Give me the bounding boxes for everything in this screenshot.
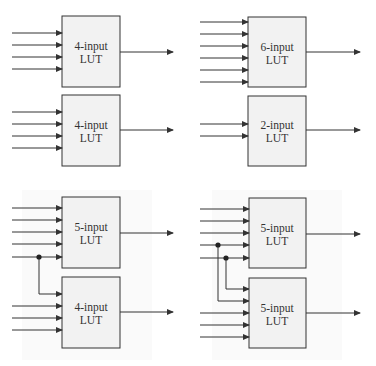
- lut-label-line2: LUT: [80, 132, 102, 144]
- lut-label-line1: 4-input: [74, 301, 108, 314]
- lut-configurations-diagram: 4-input LUT 4-input LUT 6-input LUT 2-in…: [0, 0, 376, 366]
- junction-dot: [223, 255, 228, 260]
- lut-label-line2: LUT: [266, 315, 288, 327]
- lut-label-line2: LUT: [80, 234, 102, 246]
- lut-label-line2: LUT: [266, 54, 288, 66]
- lut-label-line2: LUT: [266, 132, 288, 144]
- lut-label-line1: 2-input: [260, 119, 294, 132]
- lut-label-line1: 4-input: [74, 40, 108, 53]
- lut-label-line2: LUT: [80, 314, 102, 326]
- lut-label-line2: LUT: [80, 53, 102, 65]
- lut-label-line1: 4-input: [74, 119, 108, 132]
- lut-box: [248, 96, 306, 166]
- lut-label-line1: 5-input: [260, 302, 294, 315]
- lut-label-line1: 5-input: [74, 221, 108, 234]
- junction-dot: [36, 254, 41, 259]
- lut-label-line1: 6-input: [260, 41, 294, 54]
- junction-dot: [215, 242, 220, 247]
- lut-label-line2: LUT: [266, 235, 288, 247]
- lut-label-line1: 5-input: [260, 222, 294, 235]
- diagram-svg: 4-input LUT 4-input LUT 6-input LUT 2-in…: [0, 0, 376, 366]
